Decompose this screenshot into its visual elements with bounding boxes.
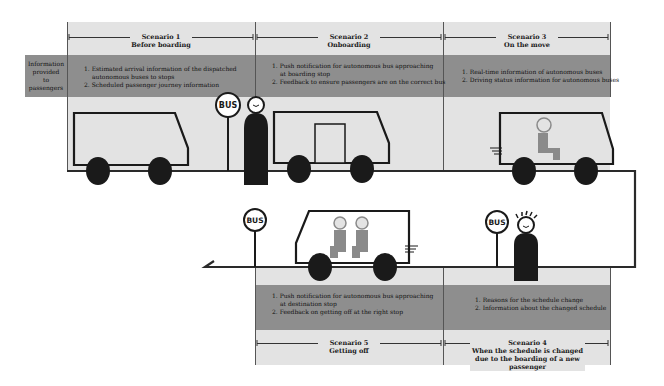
svg-text:BUS: BUS xyxy=(488,218,505,227)
bus-stop-sign-icon: BUS xyxy=(244,209,266,267)
bus-icon xyxy=(74,113,188,165)
illustration-layer: BUS BUS xyxy=(0,0,664,386)
svg-text:BUS: BUS xyxy=(246,216,263,225)
svg-text:BUS: BUS xyxy=(219,101,238,110)
bus-door-icon xyxy=(315,124,345,163)
bus-stop-sign-icon: BUS xyxy=(486,211,508,267)
new-passenger-icon xyxy=(514,211,538,281)
waiting-passenger-icon xyxy=(244,97,268,185)
bus-stop-sign-icon: BUS xyxy=(216,93,240,171)
